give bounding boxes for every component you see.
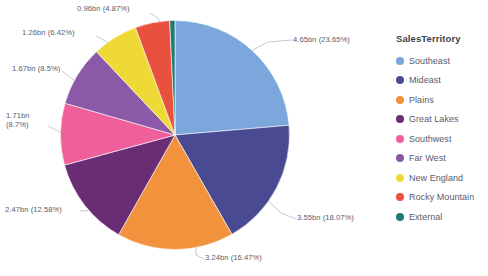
pie-slice-southeast[interactable] (175, 21, 289, 136)
slice-label-southwest-percent: (8.7%) (6, 120, 29, 129)
legend-item-external[interactable]: External (396, 207, 488, 227)
legend-item-label: External (409, 212, 442, 222)
legend-item-great-lakes[interactable]: Great Lakes (396, 110, 488, 130)
legend-title: SalesTerritory (396, 33, 488, 44)
legend-item-far-west[interactable]: Far West (396, 149, 488, 169)
slice-label-southwest: 1.71bn (8.7%) (6, 111, 50, 130)
legend-item-rocky-mountain[interactable]: Rocky Mountain (396, 188, 488, 208)
slice-label-mideast: 3.55bn (18.07%) (297, 213, 354, 222)
slice-label-southwest-value: 1.71bn (6, 111, 30, 120)
slice-label-far-west: 1.67bn (8.5%) (12, 64, 60, 73)
legend-item-new-england[interactable]: New England (396, 168, 488, 188)
slice-label-plains: 3.24bn (16.47%) (205, 253, 262, 262)
legend-item-label: Mideast (409, 75, 441, 85)
legend-item-southeast[interactable]: Southeast (396, 51, 488, 71)
legend-item-label: New England (409, 173, 463, 183)
legend-item-label: Southwest (409, 134, 451, 144)
legend-swatch-icon (396, 193, 404, 201)
pie-slices (61, 20, 290, 249)
legend-item-southwest[interactable]: Southwest (396, 129, 488, 149)
legend: SalesTerritory SoutheastMideastPlainsGre… (388, 0, 488, 276)
legend-item-label: Great Lakes (409, 114, 459, 124)
legend-swatch-icon (396, 96, 404, 104)
slice-label-great-lakes: 2.47bn (12.58%) (5, 205, 62, 214)
legend-item-plains[interactable]: Plains (396, 90, 488, 110)
legend-swatch-icon (396, 76, 404, 84)
legend-item-mideast[interactable]: Mideast (396, 71, 488, 91)
slice-label-rocky-mountain: 0.96bn (4.87%) (77, 4, 130, 13)
legend-item-label: Rocky Mountain (409, 192, 474, 202)
legend-swatch-icon (396, 174, 404, 182)
chart-area: 4.65bn (23.65%) 3.55bn (18.07%) 3.24bn (… (0, 0, 388, 276)
legend-swatch-icon (396, 135, 404, 143)
pie-wrap (60, 20, 290, 250)
legend-item-label: Plains (409, 95, 434, 105)
legend-swatch-icon (396, 154, 404, 162)
legend-item-label: Far West (409, 153, 446, 163)
slice-label-new-england: 1.26bn (6.42%) (22, 28, 75, 37)
legend-swatch-icon (396, 115, 404, 123)
slice-label-southeast: 4.65bn (23.65%) (293, 35, 350, 44)
legend-swatch-icon (396, 57, 404, 65)
legend-swatch-icon (396, 213, 404, 221)
pie-svg (60, 20, 290, 250)
legend-item-label: Southeast (409, 56, 450, 66)
pie-chart-visual: 4.65bn (23.65%) 3.55bn (18.07%) 3.24bn (… (0, 0, 488, 276)
legend-items: SoutheastMideastPlainsGreat LakesSouthwe… (396, 51, 488, 227)
